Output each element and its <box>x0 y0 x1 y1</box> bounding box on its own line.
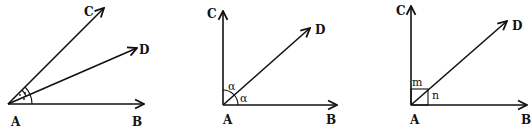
angle-dot <box>24 92 26 94</box>
ray-ad <box>411 21 507 105</box>
angle-label-cad: α <box>228 80 236 93</box>
label-c: C <box>396 4 406 18</box>
label-c: C <box>84 5 94 19</box>
angle-label-dab: n <box>432 89 439 102</box>
label-b: B <box>521 113 531 127</box>
ray-ad <box>223 28 310 105</box>
ray-ac <box>8 8 104 104</box>
angle-diagrams: C D A B α α C D A B m n C D A B <box>0 0 532 132</box>
angle-dot <box>23 98 25 100</box>
label-a: A <box>10 115 21 129</box>
figure-3: m n C D A B <box>396 4 531 127</box>
angle-dot <box>19 94 21 96</box>
angle-label-dab: α <box>240 92 248 105</box>
label-a: A <box>222 113 233 127</box>
label-c: C <box>207 7 217 21</box>
label-b: B <box>326 113 336 127</box>
label-d: D <box>139 43 149 57</box>
figure-2: α α C D A B <box>207 7 337 127</box>
label-d: D <box>512 19 522 33</box>
label-b: B <box>132 115 142 129</box>
label-d: D <box>315 23 325 37</box>
angle-label-cad: m <box>412 76 423 89</box>
figure-1: C D A B <box>8 5 149 129</box>
label-a: A <box>409 113 420 127</box>
ray-ad <box>8 48 137 104</box>
